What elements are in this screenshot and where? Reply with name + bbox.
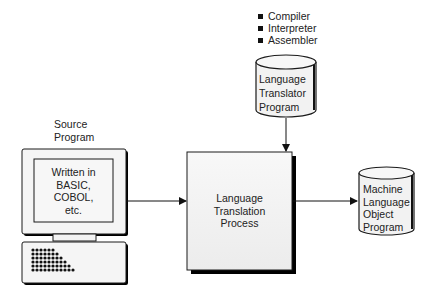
screen-line: BASIC, xyxy=(34,179,113,192)
screen-line: etc. xyxy=(34,204,113,217)
screen-line: Written in xyxy=(34,166,113,179)
label-line: Machine xyxy=(363,183,415,196)
list-item: Compiler xyxy=(258,10,318,22)
label-line: Language xyxy=(259,72,315,86)
translator-type-compiler: Compiler xyxy=(268,10,310,23)
bullet-square-icon xyxy=(258,26,263,31)
translator-type-interpreter: Interpreter xyxy=(268,22,316,35)
list-item: Interpreter xyxy=(258,22,318,34)
diagram-canvas xyxy=(0,0,437,298)
screen-line: COBOL, xyxy=(34,191,113,204)
caption-line: Program xyxy=(54,131,94,144)
list-item: Assembler xyxy=(258,34,318,46)
translator-types-list: Compiler Interpreter Assembler xyxy=(258,10,318,46)
label-line: Object xyxy=(363,208,415,221)
label-line: Language xyxy=(187,192,292,205)
process-label: Language Translation Process xyxy=(187,192,292,230)
monitor-screen-text: Written in BASIC, COBOL, etc. xyxy=(34,166,113,216)
caption-line: Source xyxy=(54,118,94,131)
label-line: Translator xyxy=(259,86,315,100)
bullet-square-icon xyxy=(258,38,263,43)
bullet-square-icon xyxy=(258,14,263,19)
translator-type-assembler: Assembler xyxy=(268,34,318,47)
label-line: Program xyxy=(259,100,315,114)
label-line: Language xyxy=(363,196,415,209)
label-line: Process xyxy=(187,217,292,230)
label-line: Translation xyxy=(187,205,292,218)
label-line: Program xyxy=(363,221,415,234)
translator-program-label: Language Translator Program xyxy=(259,72,315,114)
source-program-caption: Source Program xyxy=(54,118,94,144)
object-program-label: Machine Language Object Program xyxy=(363,183,415,233)
computer-keyboard xyxy=(22,242,128,285)
